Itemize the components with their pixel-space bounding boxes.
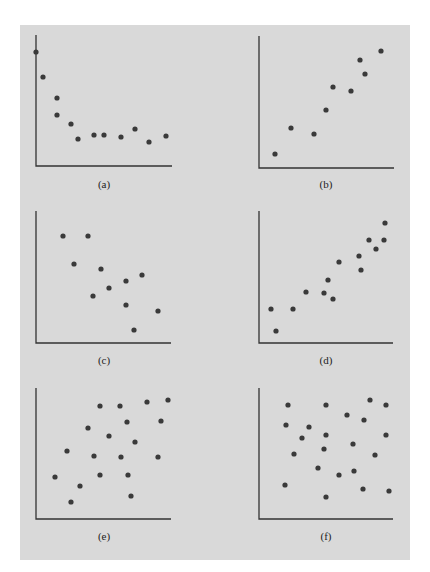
- data-point: [131, 327, 136, 332]
- data-point: [40, 74, 45, 79]
- data-point: [306, 424, 311, 429]
- caption-b: (b): [306, 178, 346, 190]
- data-point: [291, 451, 296, 456]
- data-point: [357, 57, 362, 62]
- data-point: [360, 486, 365, 491]
- data-point: [330, 84, 335, 89]
- data-point: [323, 402, 328, 407]
- data-point: [323, 107, 328, 112]
- data-point: [85, 233, 90, 238]
- data-point: [382, 220, 387, 225]
- data-point: [358, 267, 363, 272]
- data-point: [64, 448, 69, 453]
- data-point: [311, 131, 316, 136]
- axes-d: [259, 211, 393, 343]
- data-point: [383, 432, 388, 437]
- data-point: [97, 472, 102, 477]
- scatter-plot-d: [259, 211, 393, 343]
- data-point: [68, 499, 73, 504]
- data-point: [285, 402, 290, 407]
- data-point: [163, 133, 168, 138]
- axes-e: [36, 388, 171, 519]
- data-point: [321, 446, 326, 451]
- data-point: [288, 125, 293, 130]
- data-point: [132, 439, 137, 444]
- caption-c: (c): [84, 354, 124, 366]
- data-point: [366, 237, 371, 242]
- data-point: [290, 306, 295, 311]
- data-point: [77, 483, 82, 488]
- data-point: [344, 412, 349, 417]
- data-point: [155, 454, 160, 459]
- data-point: [361, 417, 366, 422]
- data-point: [336, 259, 341, 264]
- scatter-plot-e: [36, 388, 171, 519]
- data-point: [52, 474, 57, 479]
- data-point: [272, 151, 277, 156]
- data-point: [132, 126, 137, 131]
- data-point: [98, 266, 103, 271]
- data-point: [356, 253, 361, 258]
- data-point: [71, 261, 76, 266]
- data-point: [386, 488, 391, 493]
- data-point: [97, 403, 102, 408]
- data-point: [60, 233, 65, 238]
- caption-e: (e): [84, 530, 124, 542]
- data-point: [165, 397, 170, 402]
- data-point: [321, 290, 326, 295]
- data-point: [383, 402, 388, 407]
- data-point: [118, 454, 123, 459]
- data-point: [299, 435, 304, 440]
- data-point: [117, 403, 122, 408]
- caption-f: (f): [306, 530, 346, 542]
- data-point: [123, 278, 128, 283]
- data-point: [378, 48, 383, 53]
- data-point: [101, 132, 106, 137]
- data-point: [85, 425, 90, 430]
- caption-d: (d): [306, 354, 346, 366]
- data-point: [273, 328, 278, 333]
- data-point: [124, 419, 129, 424]
- data-point: [139, 272, 144, 277]
- data-point: [325, 277, 330, 282]
- data-point: [90, 293, 95, 298]
- data-point: [303, 289, 308, 294]
- data-point: [323, 494, 328, 499]
- data-point: [33, 49, 38, 54]
- data-point: [367, 397, 372, 402]
- data-point: [282, 482, 287, 487]
- data-point: [372, 452, 377, 457]
- data-point: [373, 246, 378, 251]
- data-point: [351, 468, 356, 473]
- scatter-plot-c: [36, 211, 171, 343]
- data-point: [381, 237, 386, 242]
- data-point: [54, 112, 59, 117]
- scatter-plots-grid: [0, 0, 430, 572]
- scatter-plot-b: [259, 36, 394, 168]
- data-point: [336, 472, 341, 477]
- data-point: [118, 134, 123, 139]
- scatter-plot-a: [33, 35, 172, 166]
- data-point: [362, 71, 367, 76]
- data-point: [315, 465, 320, 470]
- data-point: [268, 306, 273, 311]
- data-point: [123, 302, 128, 307]
- data-point: [68, 121, 73, 126]
- axes-c: [36, 211, 171, 343]
- data-point: [155, 308, 160, 313]
- data-point: [146, 139, 151, 144]
- data-point: [323, 432, 328, 437]
- data-point: [144, 399, 149, 404]
- caption-a: (a): [84, 178, 124, 190]
- data-point: [330, 296, 335, 301]
- data-point: [91, 132, 96, 137]
- axes-b: [259, 36, 394, 168]
- data-point: [75, 136, 80, 141]
- data-point: [106, 433, 111, 438]
- data-point: [158, 418, 163, 423]
- data-point: [348, 88, 353, 93]
- data-point: [350, 441, 355, 446]
- scatter-plot-f: [259, 388, 393, 519]
- data-point: [125, 472, 130, 477]
- data-point: [54, 95, 59, 100]
